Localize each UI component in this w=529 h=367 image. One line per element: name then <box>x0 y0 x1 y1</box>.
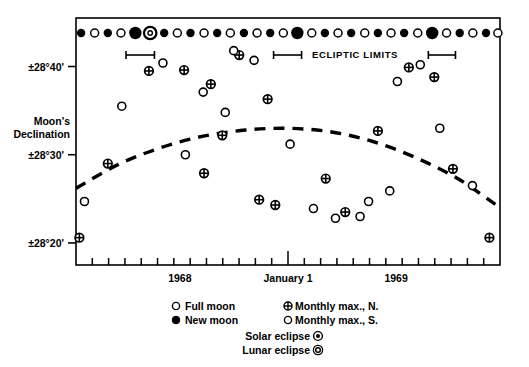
data-point-monthly-max-s <box>365 197 373 205</box>
data-point-monthly-max-n <box>405 63 414 72</box>
x-axis-ticks <box>92 251 483 265</box>
new-moon-icon <box>186 29 194 37</box>
solar-eclipse-icon <box>129 27 141 39</box>
legend-item-monthly-max-n: Monthly max., N. <box>284 300 379 312</box>
new-moon-icon <box>347 29 355 37</box>
full-moon-icon <box>334 29 342 37</box>
full-moon-icon <box>414 29 422 37</box>
full-moon-icon <box>443 29 451 37</box>
new-moon-icon <box>456 29 464 37</box>
full-moon-icon <box>387 29 395 37</box>
full-moon-icon <box>469 29 477 37</box>
data-point-monthly-max-n <box>180 66 189 75</box>
data-point-monthly-max-n <box>430 73 439 82</box>
new-moon-icon <box>400 29 408 37</box>
solar-eclipse-icon <box>426 27 438 39</box>
solar-eclipse-icon <box>291 27 303 39</box>
full-moon-icon <box>91 29 99 37</box>
new-moon-icon <box>104 29 112 37</box>
data-point-monthly-max-n <box>75 233 84 242</box>
full-moon-icon <box>361 29 369 37</box>
data-point-monthly-max-n <box>374 127 383 136</box>
data-point-monthly-max-n <box>207 80 216 89</box>
ecliptic-limit-bracket <box>274 51 302 59</box>
legend-label-solar-eclipse: Solar eclipse <box>245 330 310 342</box>
data-point-monthly-max-n <box>271 201 280 210</box>
x-tick-label: 1968 <box>168 272 192 284</box>
data-point-monthly-max-s <box>159 59 167 67</box>
legend-label-full-moon: Full moon <box>185 300 235 312</box>
x-axis-tick-labels: 1968January 11969 <box>168 272 408 284</box>
full-moon-icon <box>494 29 502 37</box>
ecliptic-limit-bracket <box>126 51 154 59</box>
legend-label-monthly-max-n: Monthly max., N. <box>295 300 379 312</box>
ecliptic-limit-bracket <box>428 51 455 59</box>
y-tick-label: ±28°40' <box>28 61 64 73</box>
open-circle-icon <box>172 302 179 309</box>
open-circle-icon <box>284 316 291 323</box>
legend-label-monthly-max-s: Monthly max., S. <box>295 314 378 326</box>
x-tick-label: 1969 <box>384 272 408 284</box>
y-tick-label: ±28°30' <box>28 149 64 161</box>
y-axis-ticks <box>68 67 76 243</box>
data-point-monthly-max-n <box>341 208 350 217</box>
data-point-monthly-max-n <box>485 233 494 242</box>
data-point-monthly-max-n <box>255 195 264 204</box>
data-point-monthly-max-s <box>250 56 258 64</box>
new-moon-icon <box>482 29 490 37</box>
data-point-monthly-max-s <box>80 197 88 205</box>
dot-in-circle-icon <box>314 332 323 341</box>
legend-item-solar-eclipse: Solar eclipse <box>245 330 322 342</box>
new-moon-icon <box>213 29 221 37</box>
y-axis-title-line1: Moon's <box>34 115 70 127</box>
data-point-monthly-max-s <box>356 212 364 220</box>
data-point-monthly-max-s <box>221 108 229 116</box>
new-moon-icon <box>160 29 168 37</box>
data-point-monthly-max-s <box>331 214 339 222</box>
data-point-monthly-max-n <box>218 131 227 140</box>
legend: Full moon New moon Monthly max., N. Mont… <box>172 300 378 356</box>
full-moon-icon <box>117 29 125 37</box>
full-moon-icon <box>253 29 261 37</box>
chart-canvas: ±28°40'±28°30'±28°20' Moon's Declination… <box>0 0 529 367</box>
data-point-monthly-max-s <box>181 151 189 159</box>
legend-item-full-moon: Full moon <box>172 300 235 312</box>
data-point-monthly-max-n <box>104 159 113 168</box>
data-point-monthly-max-s <box>386 187 394 195</box>
legend-label-new-moon: New moon <box>185 314 238 326</box>
new-moon-icon <box>77 29 85 37</box>
new-moon-icon <box>374 29 382 37</box>
data-point-monthly-max-n <box>145 67 154 76</box>
data-point-monthly-max-s <box>416 61 424 69</box>
crossed-circle-icon <box>284 302 292 310</box>
legend-item-monthly-max-s: Monthly max., S. <box>284 314 378 326</box>
moon-phase-row <box>77 27 502 39</box>
legend-label-lunar-eclipse: Lunar eclipse <box>242 344 310 356</box>
data-point-monthly-max-s <box>118 102 126 110</box>
data-point-monthly-max-n <box>200 169 209 178</box>
data-point-monthly-max-s <box>393 78 401 86</box>
data-point-monthly-max-n <box>263 95 272 104</box>
full-moon-icon <box>173 29 181 37</box>
data-point-monthly-max-n <box>449 165 458 174</box>
legend-item-lunar-eclipse: Lunar eclipse <box>242 344 322 356</box>
data-point-monthly-max-s <box>286 140 294 148</box>
double-ring-circle-icon <box>313 345 322 354</box>
legend-item-new-moon: New moon <box>172 314 238 326</box>
y-tick-label: ±28°20' <box>28 237 64 249</box>
data-point-monthly-max-s <box>230 47 238 55</box>
full-moon-icon <box>226 29 234 37</box>
y-axis-tick-labels: ±28°40'±28°30'±28°20' <box>28 61 64 249</box>
new-moon-icon <box>321 29 329 37</box>
new-moon-icon <box>240 29 248 37</box>
data-point-monthly-max-n <box>321 174 330 183</box>
data-point-monthly-max-s <box>199 88 207 96</box>
y-axis-title-line2: Declination <box>13 128 70 140</box>
data-point-monthly-max-s <box>468 182 476 190</box>
moon-declination-figure: ±28°40'±28°30'±28°20' Moon's Declination… <box>0 0 529 367</box>
lunar-eclipse-icon <box>144 27 156 39</box>
filled-circle-icon <box>172 316 180 324</box>
new-moon-icon <box>266 29 274 37</box>
data-points-layer <box>75 47 494 242</box>
full-moon-icon <box>200 29 208 37</box>
